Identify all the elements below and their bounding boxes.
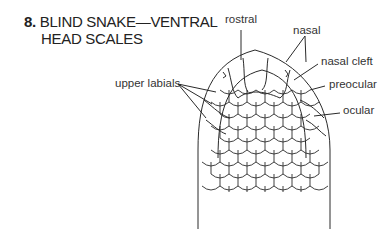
snake-head-diagram: [0, 0, 391, 229]
head-outline: [198, 50, 330, 229]
